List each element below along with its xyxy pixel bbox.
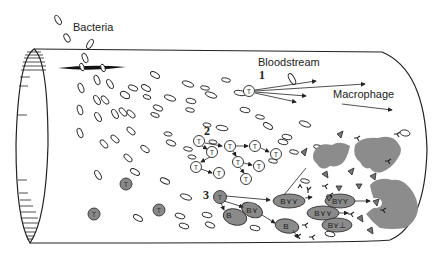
svg-text:B⋎⊥: B⋎⊥: [328, 221, 346, 230]
wound-slit: [58, 66, 126, 70]
svg-text:B: B: [226, 211, 231, 220]
svg-text:T: T: [247, 88, 252, 95]
svg-text:T: T: [218, 194, 223, 201]
svg-text:T: T: [92, 211, 97, 218]
svg-text:T: T: [194, 164, 199, 171]
step-2-t-cell-cluster: T T T T T T T T T T: [191, 136, 282, 185]
step-1-label: 1: [259, 68, 265, 82]
step-3-label: 3: [203, 188, 209, 202]
svg-text:T: T: [217, 170, 222, 177]
svg-text:T: T: [236, 159, 241, 166]
svg-text:T: T: [244, 176, 249, 183]
svg-text:T: T: [253, 143, 258, 150]
svg-text:T: T: [157, 207, 162, 214]
svg-text:T: T: [274, 151, 279, 158]
svg-text:B⋎⋎: B⋎⋎: [280, 197, 297, 206]
svg-text:BYY: BYY: [332, 197, 349, 206]
bacteria-label: Bacteria: [73, 21, 114, 33]
activated-t-cells: T T T: [88, 178, 165, 220]
svg-text:B⋎: B⋎: [246, 206, 257, 215]
immune-response-diagram: Bacteria Bloodstream Macrophage 1 2 3: [0, 0, 441, 257]
svg-text:T: T: [124, 181, 129, 188]
bloodstream-label: Bloodstream: [258, 56, 320, 68]
svg-text:B: B: [283, 222, 288, 231]
svg-text:T: T: [197, 138, 202, 145]
svg-text:T: T: [257, 163, 262, 170]
svg-text:B⋎⋎: B⋎⋎: [314, 209, 331, 218]
svg-text:T: T: [228, 143, 233, 150]
macrophage-label: Macrophage: [333, 88, 394, 100]
svg-text:T: T: [210, 149, 215, 156]
macrophage-arrow: [342, 104, 392, 110]
step-3-b-cell-activation: T B B⋎ B⋎⋎ B BYY B⋎⋎ B⋎⊥: [214, 168, 371, 238]
